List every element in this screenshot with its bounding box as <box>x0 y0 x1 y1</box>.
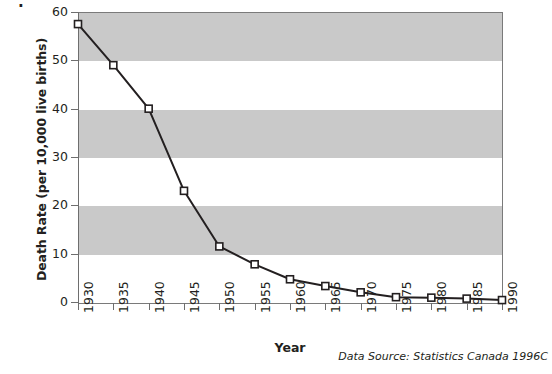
x-tick-1965 <box>325 303 326 310</box>
y-tick-30 <box>71 157 78 158</box>
x-tick-label-1965: 1965 <box>330 281 343 313</box>
cropped-title-glyph: . <box>18 0 24 11</box>
y-tick-label-40: 40 <box>34 103 68 116</box>
x-tick-label-1960: 1960 <box>295 281 308 313</box>
y-tick-0 <box>71 302 78 303</box>
x-tick-1935 <box>113 303 114 310</box>
y-tick-20 <box>71 205 78 206</box>
x-tick-label-1935: 1935 <box>118 281 131 313</box>
x-tick-1960 <box>290 303 291 310</box>
x-tick-1975 <box>396 303 397 310</box>
x-tick-label-1945: 1945 <box>189 281 202 313</box>
x-tick-label-1985: 1985 <box>472 281 485 313</box>
y-tick-label-20: 20 <box>34 199 68 212</box>
y-tick-label-0: 0 <box>34 296 68 309</box>
x-tick-1990 <box>502 303 503 310</box>
x-tick-label-1980: 1980 <box>436 281 449 313</box>
chart-figure: . Death Rate (per 10,000 live births) 60… <box>0 0 552 374</box>
x-tick-1950 <box>219 303 220 310</box>
x-tick-label-1970: 1970 <box>366 281 379 313</box>
y-tick-label-10: 10 <box>34 248 68 261</box>
source-note: Data Source: Statistics Canada 1996C <box>338 350 548 363</box>
x-tick-label-1940: 1940 <box>154 281 167 313</box>
x-tick-1930 <box>78 303 79 310</box>
y-tick-10 <box>71 254 78 255</box>
y-tick-label-60: 60 <box>34 6 68 19</box>
plot-area <box>78 12 503 304</box>
y-tick-label-50: 50 <box>34 54 68 67</box>
y-tick-60 <box>71 12 78 13</box>
y-tick-50 <box>71 60 78 61</box>
x-tick-label-1950: 1950 <box>224 281 237 313</box>
x-tick-label-1990: 1990 <box>507 281 520 313</box>
x-tick-1955 <box>255 303 256 310</box>
x-tick-label-1955: 1955 <box>260 281 273 313</box>
x-tick-1970 <box>361 303 362 310</box>
shaded-band-30-40 <box>78 110 502 158</box>
x-tick-1980 <box>431 303 432 310</box>
x-tick-1985 <box>467 303 468 310</box>
x-tick-label-1930: 1930 <box>83 281 96 313</box>
shaded-band-50-60 <box>78 13 502 61</box>
x-tick-1940 <box>149 303 150 310</box>
y-tick-label-30: 30 <box>34 151 68 164</box>
y-axis-line <box>78 12 79 303</box>
shaded-band-10-20 <box>78 206 502 254</box>
x-tick-1945 <box>184 303 185 310</box>
x-tick-label-1975: 1975 <box>401 281 414 313</box>
y-tick-40 <box>71 109 78 110</box>
